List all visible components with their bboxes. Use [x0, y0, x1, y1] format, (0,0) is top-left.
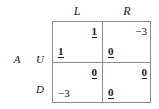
row-header-D: D — [32, 81, 48, 97]
cell-up-right: −3 0 — [103, 22, 152, 62]
cell-up-left-column-payoff: 1 — [92, 25, 98, 38]
cell-down-right-row-payoff: 0 — [108, 86, 114, 99]
row-header-U: U — [32, 51, 48, 67]
payoff-grid: 1 1 −3 0 0 −3 0 0 — [52, 21, 151, 103]
cell-down-left-row-payoff: −3 — [58, 87, 70, 99]
column-header-L: L — [52, 3, 102, 20]
column-header-R: R — [102, 3, 152, 20]
cell-down-left-column-payoff: 0 — [92, 66, 98, 79]
cell-down-right-column-payoff: 0 — [142, 66, 148, 79]
cell-up-left-row-payoff: 1 — [58, 45, 64, 58]
cell-up-left: 1 1 — [53, 22, 102, 62]
row-player-label: A — [10, 52, 24, 66]
payoff-matrix-figure: L R A U D 1 1 −3 0 0 −3 0 0 — [0, 0, 159, 109]
cell-up-right-column-payoff: −3 — [135, 25, 147, 37]
cell-up-right-row-payoff: 0 — [108, 45, 114, 58]
cell-down-right: 0 0 — [103, 63, 152, 103]
cell-down-left: 0 −3 — [53, 63, 102, 103]
